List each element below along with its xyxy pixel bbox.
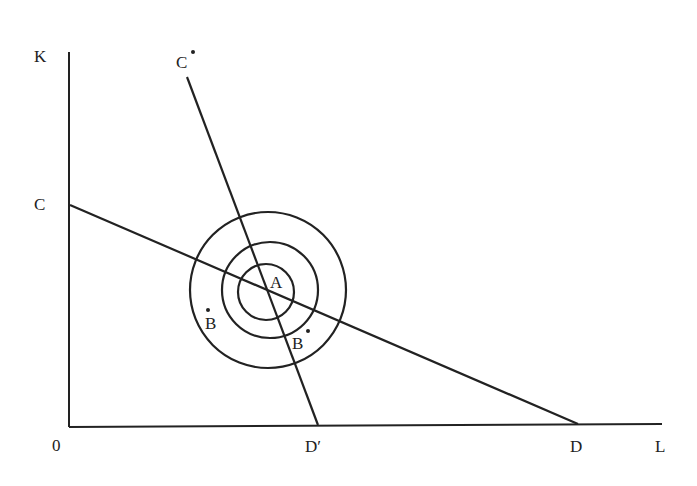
cstar-dot [191, 50, 195, 54]
line-cd [70, 205, 578, 424]
dprime-label: D′ [305, 437, 321, 456]
b-right-label: B [292, 334, 303, 353]
b-left-label: B [205, 314, 216, 333]
k-axis-label: K [34, 47, 47, 66]
b-right-dot [306, 329, 310, 333]
inner-ring [238, 264, 294, 320]
l-axis-label: L [655, 437, 665, 456]
b-left-dot [206, 308, 210, 312]
a-label: A [270, 273, 283, 292]
c-label: C [34, 195, 45, 214]
l-axis [69, 424, 662, 427]
origin-label: 0 [52, 436, 61, 455]
production-diagram: K C C A B B 0 D′ D L [0, 0, 697, 486]
d-label: D [570, 437, 582, 456]
cstar-label: C [176, 53, 187, 72]
